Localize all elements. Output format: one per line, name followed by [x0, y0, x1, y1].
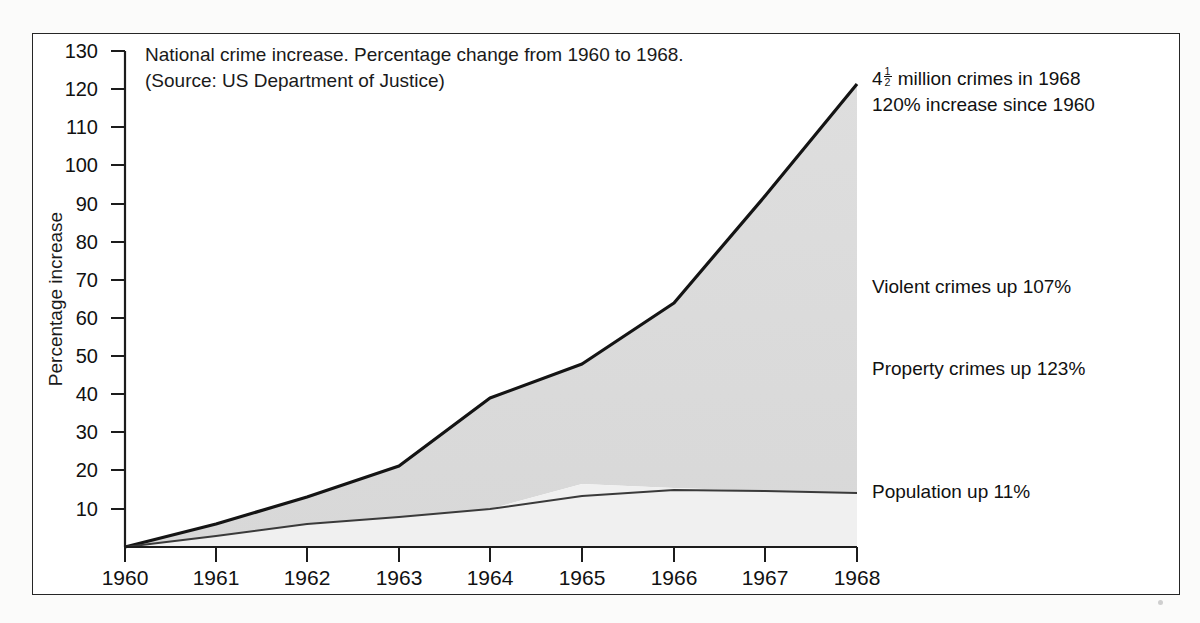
y-axis-ticks	[111, 51, 125, 509]
fraction-denominator: 2	[884, 77, 892, 87]
figure-canvas: National crime increase. Percentage chan…	[0, 0, 1200, 623]
annotation-violent-crimes: Violent crimes up 107%	[872, 276, 1071, 298]
y-tick-label-40: 40	[38, 383, 98, 406]
y-tick-label-60: 60	[38, 307, 98, 330]
y-tick-label-130: 130	[38, 40, 98, 63]
x-tick-label-1964: 1964	[445, 566, 535, 590]
annotation-population: Population up 11%	[872, 481, 1030, 503]
y-tick-label-20: 20	[38, 459, 98, 482]
chart-title-line-2: (Source: US Department of Justice)	[145, 68, 684, 94]
crime-area-fill	[125, 84, 857, 547]
y-tick-label-90: 90	[38, 193, 98, 216]
y-tick-label-100: 100	[38, 154, 98, 177]
x-tick-label-1966: 1966	[629, 566, 719, 590]
chart-title-block: National crime increase. Percentage chan…	[145, 42, 684, 94]
x-tick-label-1962: 1962	[262, 566, 352, 590]
y-tick-label-80: 80	[38, 231, 98, 254]
x-tick-label-1968: 1968	[812, 566, 902, 590]
annotation-total-crimes-value: 4	[872, 68, 883, 89]
annotation-total-crimes: 412 million crimes in 1968	[872, 66, 1080, 90]
y-tick-label-30: 30	[38, 421, 98, 444]
y-tick-label-110: 110	[38, 116, 98, 139]
x-tick-label-1965: 1965	[537, 566, 627, 590]
x-tick-label-1967: 1967	[720, 566, 810, 590]
x-tick-label-1960: 1960	[80, 566, 170, 590]
chart-title-line-1: National crime increase. Percentage chan…	[145, 42, 684, 68]
x-tick-label-1961: 1961	[171, 566, 261, 590]
y-tick-label-50: 50	[38, 345, 98, 368]
annotation-crime-increase: 120% increase since 1960	[872, 94, 1095, 116]
scan-artifact-speck	[1158, 600, 1163, 605]
annotation-half-fraction: 12	[884, 66, 892, 87]
y-tick-label-70: 70	[38, 269, 98, 292]
y-tick-label-10: 10	[38, 498, 98, 521]
x-tick-label-1963: 1963	[354, 566, 444, 590]
y-tick-label-120: 120	[38, 78, 98, 101]
x-axis-ticks	[125, 547, 857, 562]
annotation-property-crimes: Property crimes up 123%	[872, 358, 1085, 380]
annotation-total-crimes-text: million crimes in 1968	[893, 68, 1081, 89]
y-axis-title: Percentage increase	[45, 199, 67, 399]
